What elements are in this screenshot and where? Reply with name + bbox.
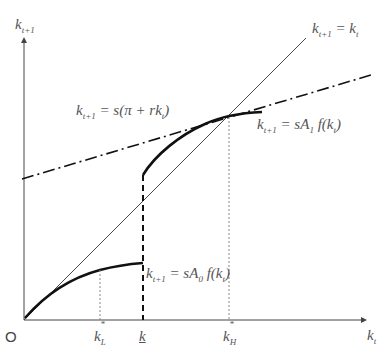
dash-dot-line-label: kt+1 = s(π + rkt) bbox=[76, 103, 169, 121]
kL-star-label: k*L bbox=[94, 329, 106, 347]
forty-five-line-label: kt+1 = kt bbox=[312, 21, 359, 39]
x-axis-label: kt bbox=[367, 328, 376, 346]
upper-curve bbox=[143, 112, 262, 175]
origin-label: O bbox=[5, 328, 17, 345]
lower-curve bbox=[25, 263, 143, 318]
upper-curve-label: kt+1 = sA1 f(kt) bbox=[257, 117, 341, 135]
k-bar-label: k bbox=[139, 329, 146, 344]
kH-star-label: k*H bbox=[223, 329, 236, 347]
y-axis-label: kt+1 bbox=[15, 17, 35, 35]
phase-diagram bbox=[0, 0, 389, 356]
lower-curve-label: kt+1 = sA0 f(kt) bbox=[146, 266, 230, 284]
